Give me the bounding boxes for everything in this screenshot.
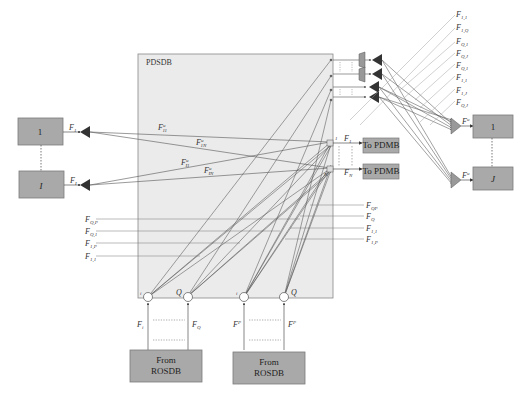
top-right-label-2: FQ,1 xyxy=(455,37,468,48)
right-combiner-J-icon xyxy=(451,172,461,188)
top-right-label-5: F1,1 xyxy=(455,73,467,84)
right-node-J-input-label: Fu xyxy=(461,171,470,180)
top-right-label-3: FQ,J xyxy=(455,49,469,60)
top-right-label-0: F1,1 xyxy=(455,10,467,21)
port-2-i xyxy=(240,293,249,302)
rosdb-feed-lines xyxy=(148,303,284,350)
rosdb-ellipsis-lines xyxy=(153,320,281,340)
left-input-label-2: F1,P xyxy=(84,239,97,250)
port-2-q-label: Q xyxy=(291,288,297,297)
inner-label-FI1: FuI1 xyxy=(180,158,190,168)
right-input-label-3: F1,P xyxy=(365,235,378,246)
to-pdmb-N-signal: FN xyxy=(343,168,353,178)
right-input-label-0: FQP xyxy=(365,201,378,211)
svg-text:1: 1 xyxy=(335,136,338,141)
transmitter-2-icon xyxy=(372,68,382,80)
left-node-1-receiver-icon xyxy=(80,126,90,138)
port-1-q-label: Q xyxy=(176,288,182,297)
svg-text:N: N xyxy=(323,172,328,177)
rosdb-2-signal-q: FP xyxy=(287,320,296,329)
port-1-i xyxy=(144,293,153,302)
left-node-1-output-label: F1 xyxy=(68,123,76,133)
to-pdmb-1-box: To PDMB xyxy=(362,138,399,153)
svg-text:To PDMB: To PDMB xyxy=(362,166,399,176)
top-right-label-1: F1,Q xyxy=(455,23,469,34)
right-node-1-input-label: Fu xyxy=(461,117,470,126)
svg-text:From: From xyxy=(156,355,176,365)
pdsdb-architecture-diagram: PDSDB 1 I F1 FI Fu11 Fu1N FuI1 FuIN FQ,P… xyxy=(0,0,524,399)
left-node-I: I xyxy=(19,171,64,198)
right-node-1: 1 xyxy=(473,115,513,138)
top-right-label-4: FQ,1 xyxy=(455,61,468,72)
combiner-1-icon xyxy=(359,52,365,68)
svg-text:ROSDB: ROSDB xyxy=(254,368,284,378)
top-right-label-lines xyxy=(350,15,455,125)
right-input-label-1: FQ xyxy=(365,212,375,222)
port-2-q xyxy=(280,293,289,302)
from-rosdb-box-1: From ROSDB xyxy=(130,350,202,382)
right-node-J: J xyxy=(473,167,513,190)
to-pdmb-1-signal: F1 xyxy=(343,134,351,144)
from-rosdb-box-2: From ROSDB xyxy=(233,352,305,384)
left-node-I-output-label: FI xyxy=(69,176,77,186)
right-combiner-1-icon xyxy=(451,118,461,134)
svg-text:To PDMB: To PDMB xyxy=(362,140,399,150)
svg-text:From: From xyxy=(259,357,279,367)
to-pdmb-N-box: To PDMB xyxy=(362,164,399,179)
pdsdb-title: PDSDB xyxy=(146,58,172,67)
left-input-label-0: FQ,P xyxy=(84,215,98,226)
combiner-2-icon xyxy=(359,67,365,82)
top-right-label-7: FQ,J xyxy=(455,98,469,109)
rosdb-1-signal-i: Fi xyxy=(136,320,144,330)
left-node-1: 1 xyxy=(18,118,63,145)
port-1-q xyxy=(184,293,193,302)
svg-text:1: 1 xyxy=(491,122,496,132)
rosdb-1-signal-q: FQ xyxy=(191,320,201,330)
transmitter-3-icon xyxy=(369,81,379,93)
pdsdb-block: PDSDB xyxy=(138,54,333,298)
left-node-1-label: 1 xyxy=(38,127,43,137)
svg-text:ROSDB: ROSDB xyxy=(151,366,181,376)
left-input-label-1: FQ,1 xyxy=(84,227,97,238)
left-input-label-3: F1,1 xyxy=(84,252,96,263)
transmitter-1-icon xyxy=(372,54,382,66)
right-input-label-2: F1,1 xyxy=(365,224,377,235)
top-right-label-6: F1,J xyxy=(455,86,468,97)
left-node-I-receiver-icon xyxy=(80,179,90,191)
rosdb-2-signal-i: FP xyxy=(232,320,241,329)
